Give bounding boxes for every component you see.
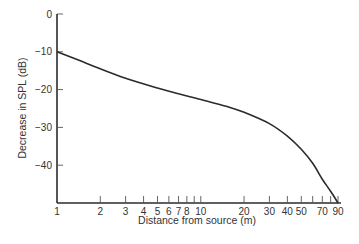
axes	[57, 14, 341, 203]
x-tick-label: 2	[98, 206, 104, 217]
x-tick-label: 50	[296, 206, 308, 217]
y-tick-label: −10	[35, 46, 52, 57]
y-tick-label: −30	[35, 122, 52, 133]
x-tick-label: 40	[282, 206, 294, 217]
y-axis-label: Decrease in SPL (dB)	[16, 57, 28, 158]
spl-curve	[57, 52, 338, 203]
y-tick-label: −20	[35, 84, 52, 95]
x-tick-label: 70	[317, 206, 329, 217]
x-tick-label: 90	[332, 206, 344, 217]
y-tick-label: 0	[46, 9, 52, 20]
y-tick-label: −40	[35, 160, 52, 171]
y-axis-ticks: 0−10−20−30−40	[35, 9, 63, 171]
spl-chart: 0−10−20−30−40 1234567810203040507090 Dis…	[0, 0, 359, 244]
x-tick-label: 30	[264, 206, 276, 217]
x-tick-label: 1	[54, 206, 60, 217]
x-axis-label: Distance from source (m)	[138, 214, 256, 226]
x-tick-label: 3	[123, 206, 129, 217]
